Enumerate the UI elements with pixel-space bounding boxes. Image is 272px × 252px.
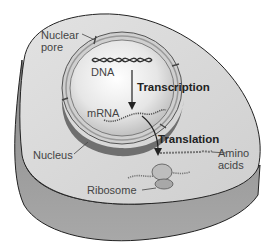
label-amino-acids: Amino acids (218, 147, 249, 171)
label-nuclear-pore-line1: Nuclear (41, 29, 79, 41)
cell-diagram: Nuclear pore DNA Transcription mRNA Tran… (0, 0, 272, 252)
label-dna: DNA (91, 66, 114, 78)
label-ribosome: Ribosome (87, 184, 137, 196)
label-amino-line1: Amino (218, 147, 249, 159)
label-mrna: mRNA (87, 107, 119, 119)
label-amino-line2: acids (218, 159, 249, 171)
label-translation: Translation (158, 133, 219, 145)
label-transcription: Transcription (137, 81, 210, 93)
label-nuclear-pore-line2: pore (41, 41, 79, 53)
label-nuclear-pore: Nuclear pore (41, 29, 79, 53)
ribosome-icon (152, 164, 173, 189)
label-nucleus: Nucleus (33, 149, 73, 161)
